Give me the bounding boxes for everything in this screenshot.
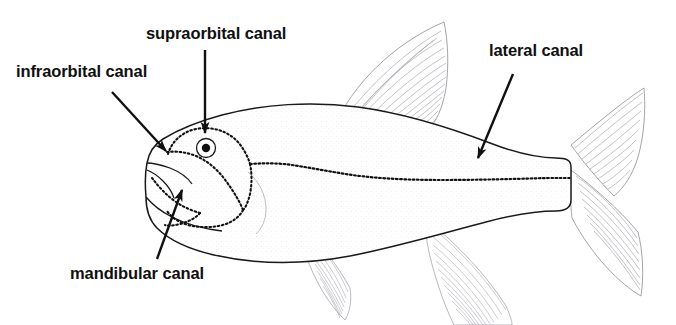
label-supraorbital-canal: supraorbital canal <box>146 25 286 42</box>
eye <box>197 139 216 158</box>
label-infraorbital-canal: infraorbital canal <box>16 63 147 80</box>
label-lateral-canal: lateral canal <box>489 42 583 59</box>
label-mandibular-canal: mandibular canal <box>70 265 204 282</box>
